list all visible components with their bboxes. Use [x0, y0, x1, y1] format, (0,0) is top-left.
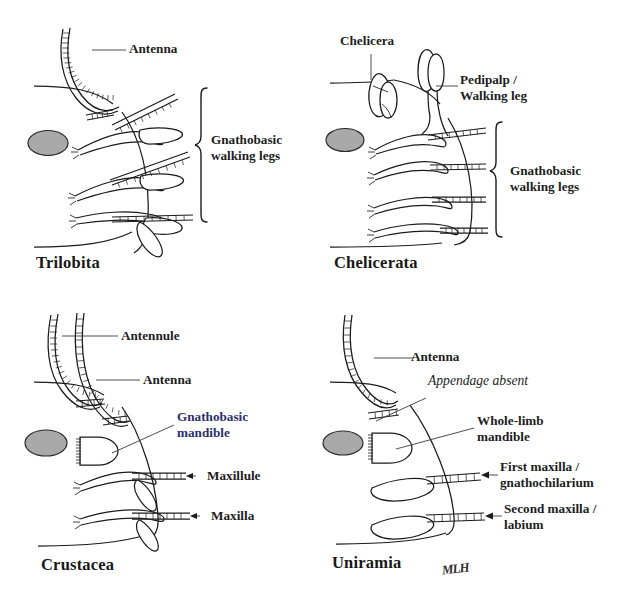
eye: [25, 430, 67, 456]
gnathobasic-brace: [195, 88, 207, 222]
gnathobasic-mandible: [76, 437, 118, 465]
maxillule: [73, 472, 186, 511]
label-maxillule: Maxillule: [207, 468, 260, 484]
body-outline: [330, 80, 472, 247]
first-maxilla-leader: [481, 472, 498, 479]
label-first-maxilla: First maxilla / gnathochilarium: [500, 459, 594, 490]
maxilla-leader: [190, 513, 200, 519]
whole-limb-mandible: [368, 433, 412, 463]
label-antenna: Antenna: [129, 41, 177, 57]
label-whole-limb-mandible: Whole-limb mandible: [477, 413, 544, 444]
antenna-stub: [86, 110, 114, 120]
walking-leg-3: [367, 197, 486, 218]
label-second-maxilla: Second maxilla / labium: [504, 501, 596, 532]
label-chelicera: Chelicera: [340, 33, 394, 49]
second-maxilla-leader: [485, 513, 502, 520]
eye: [28, 131, 68, 156]
walking-leg-1: [368, 128, 486, 159]
label-antenna: Antenna: [411, 349, 459, 365]
second-maxilla: [371, 513, 485, 539]
antenna: [343, 315, 398, 408]
taxon-name-crustacea: Crustacea: [41, 555, 114, 575]
gnathobasic-brace: [490, 122, 502, 237]
label-antennule: Antennule: [121, 328, 180, 344]
antenna: [61, 28, 119, 114]
walking-leg-1: [71, 94, 183, 159]
maxilla: [73, 510, 190, 551]
arthropod-appendage-figure: Antenna Gnathobasic walking legs Trilobi…: [0, 0, 636, 606]
label-antenna: Antenna: [143, 372, 191, 388]
panel-chelicerata: Chelicera Pedipalp / Walking leg Gnathob…: [318, 0, 636, 303]
eye: [326, 129, 364, 152]
first-maxilla: [371, 473, 481, 501]
label-gnathobasic-walking-legs: Gnathobasic walking legs: [211, 132, 282, 163]
label-maxilla: Maxilla: [211, 508, 254, 524]
pedipalp: [418, 50, 448, 136]
panel-crustacea: Antennule Antenna Gnathobasic mandible M…: [0, 303, 318, 606]
label-gnathobasic-mandible: Gnathobasic mandible: [177, 409, 248, 440]
eye: [323, 431, 363, 455]
taxon-name-trilobita: Trilobita: [36, 253, 100, 273]
walking-leg-3: [69, 212, 193, 234]
taxon-name-chelicerata: Chelicerata: [334, 253, 418, 273]
maxillule-leader: [186, 473, 196, 479]
artist-signature: MLH: [441, 559, 469, 578]
walking-leg-4: [367, 224, 488, 242]
walking-leg-2: [68, 152, 190, 205]
label-pedipalp-walking-leg: Pedipalp / Walking leg: [460, 72, 527, 103]
taxon-name-uniramia: Uniramia: [332, 553, 401, 573]
panel-trilobita: Antenna Gnathobasic walking legs Trilobi…: [0, 0, 318, 303]
panel-uniramia: Antenna Appendage absent Whole-limb mand…: [318, 303, 636, 606]
label-appendage-absent: Appendage absent: [428, 373, 528, 389]
label-gnathobasic-walking-legs: Gnathobasic walking legs: [510, 163, 581, 194]
